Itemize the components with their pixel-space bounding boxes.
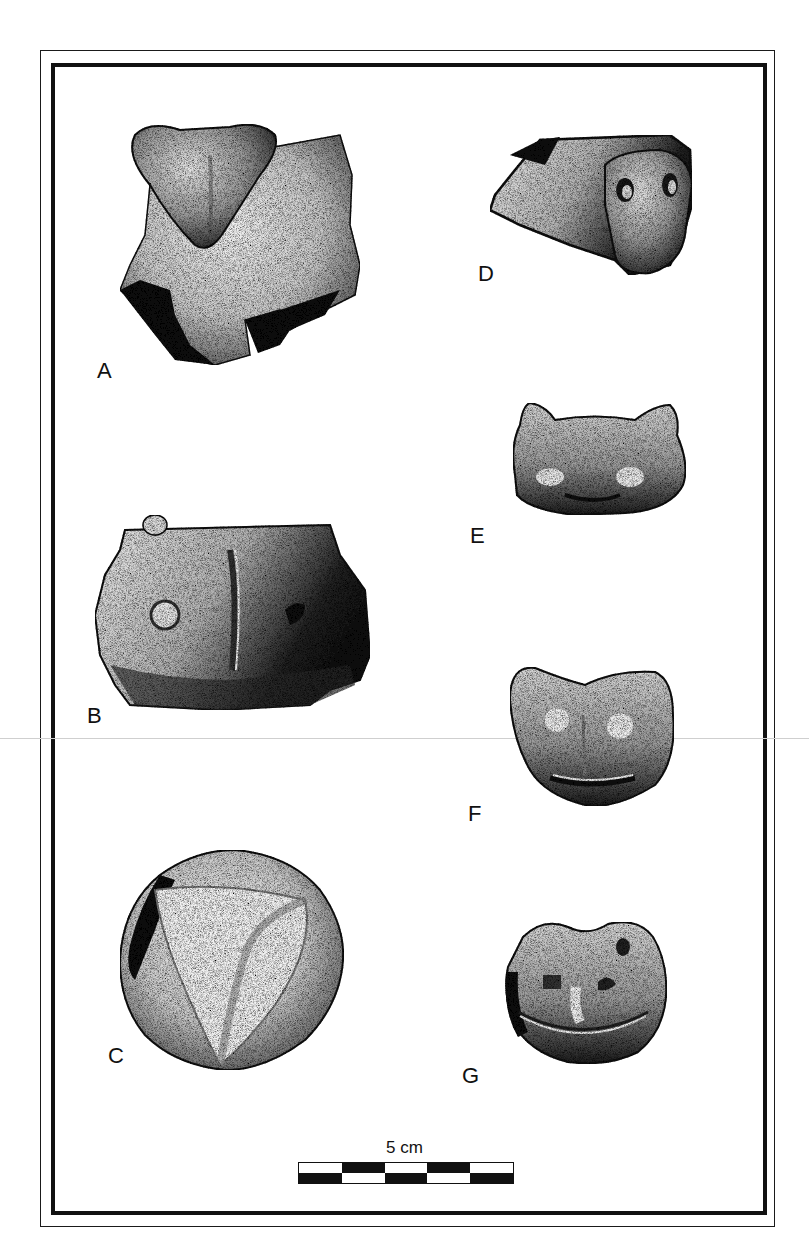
figure-label-g: G [462, 1065, 479, 1087]
scale-segment [299, 1173, 342, 1183]
scale-segment [342, 1163, 385, 1173]
figure-f-drawing [505, 660, 680, 810]
scale-segment [385, 1173, 428, 1183]
figure-d-drawing [480, 125, 710, 295]
figure-label-f: F [468, 803, 481, 825]
scale-segment [427, 1163, 470, 1173]
figure-label-b: B [87, 705, 102, 727]
scale-segment [385, 1163, 428, 1173]
figure-label-c: C [108, 1045, 124, 1067]
scale-bar [298, 1162, 514, 1184]
scale-segment [470, 1163, 513, 1173]
figure-label-e: E [470, 525, 485, 547]
scale-segment [427, 1173, 470, 1183]
figure-label-a: A [97, 360, 112, 382]
figure-a-drawing [110, 115, 380, 375]
scale-segment [342, 1173, 385, 1183]
scale-segment [470, 1173, 513, 1183]
figure-label-d: D [478, 263, 494, 285]
figure-g-drawing [498, 912, 673, 1067]
scan-artifact-line [0, 738, 809, 739]
figure-e-drawing [505, 395, 695, 515]
figure-b-drawing [90, 505, 370, 715]
scale-segment [299, 1163, 342, 1173]
figure-c-drawing [115, 845, 355, 1075]
scale-label: 5 cm [386, 1138, 423, 1158]
